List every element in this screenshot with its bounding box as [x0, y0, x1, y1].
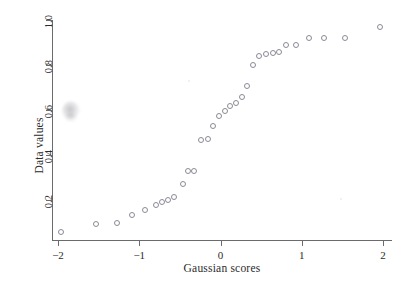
data-point — [256, 53, 262, 59]
x-tick-label: 0 — [201, 249, 241, 261]
y-axis-label: Data values — [26, 0, 52, 291]
data-point — [283, 42, 289, 48]
data-point — [93, 221, 99, 227]
data-point — [191, 168, 197, 174]
data-point — [165, 197, 171, 203]
data-point — [180, 181, 186, 187]
data-point — [342, 35, 348, 41]
data-point — [250, 62, 256, 68]
x-axis-label: Gaussian scores — [52, 262, 392, 274]
data-point — [276, 49, 282, 55]
data-point — [321, 35, 327, 41]
x-tick-label: 1 — [282, 249, 322, 261]
data-point — [58, 229, 64, 235]
data-point — [239, 94, 245, 100]
data-point — [114, 220, 120, 226]
data-point — [306, 35, 312, 41]
data-point — [205, 136, 211, 142]
data-point — [198, 137, 204, 143]
scan-speck-icon — [340, 198, 342, 200]
data-point — [293, 42, 299, 48]
x-tick-label: −1 — [119, 249, 159, 261]
data-point — [222, 108, 228, 114]
data-point — [142, 207, 148, 213]
data-point — [129, 212, 135, 218]
data-point — [263, 51, 269, 57]
data-point — [216, 113, 222, 119]
data-point — [233, 100, 239, 106]
x-tick — [221, 240, 222, 246]
data-point — [171, 194, 177, 200]
scan-smudge-tail-artifact — [64, 113, 77, 122]
data-point — [153, 202, 159, 208]
x-tick-label: 2 — [363, 249, 403, 261]
normal-probability-plot: 0.20.40.60.81.0 −2−1012 Data values Gaus… — [0, 0, 412, 291]
x-tick — [383, 240, 384, 246]
x-tick — [139, 240, 140, 246]
data-point — [210, 123, 216, 129]
x-axis-line — [52, 240, 392, 241]
data-point — [377, 24, 383, 30]
data-point — [244, 83, 250, 89]
scan-speck-icon — [188, 80, 190, 82]
x-tick — [58, 240, 59, 246]
x-tick — [302, 240, 303, 246]
